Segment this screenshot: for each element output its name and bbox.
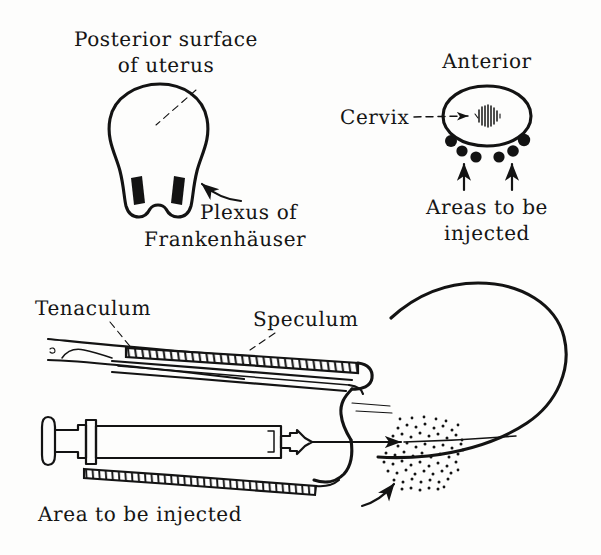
tenaculum-label: Tenaculum [35, 296, 151, 320]
injection-site-dot [507, 145, 519, 157]
syringe [42, 417, 312, 465]
illustration-page: Posterior surface of uterus Plexus of Fr… [0, 0, 601, 555]
medical-illustration: Posterior surface of uterus Plexus of Fr… [0, 0, 601, 555]
area-to-be-injected-label: Area to be injected [37, 502, 242, 526]
syringe-graduation [268, 431, 274, 452]
cervical-canal-hint [356, 411, 392, 413]
injection-site-dot [470, 151, 481, 162]
speculum-lower-blade [84, 469, 316, 495]
posterior-uterus-caption-line1: Posterior surface [74, 27, 258, 51]
cervix-label: Cervix [340, 105, 409, 129]
cervical-os [475, 105, 500, 127]
areas-to-be-injected-line1: Areas to be [425, 195, 548, 219]
area-to-be-injected-arrow [362, 484, 394, 506]
syringe-barrel [96, 426, 281, 458]
tenaculum-handle-eye [50, 348, 55, 353]
uterus-outline-posterior [109, 84, 208, 217]
posterior-uterus-caption-line2: of uterus [118, 53, 215, 77]
injection-site-dot [493, 151, 504, 162]
plexus-mark-left [131, 176, 145, 205]
areas-to-be-injected-line2: injected [444, 221, 530, 245]
uterus-outline-sagittal [378, 283, 566, 458]
posterior-uterus-leader-line [156, 90, 196, 125]
speculum-label: Speculum [253, 307, 358, 331]
plexus-label-line1: Plexus of [200, 200, 298, 224]
anterior-title: Anterior [441, 49, 532, 73]
injection-site-dot [445, 135, 457, 147]
syringe-tip [281, 430, 312, 454]
plexus-mark-right [171, 176, 185, 205]
syringe-thumb-rest [42, 417, 55, 465]
cervical-canal-hint [352, 403, 390, 406]
plexus-label-line2: Frankenhäuser [144, 227, 306, 251]
panel-procedure-view: Tenaculum Speculum [35, 283, 566, 526]
syringe-finger-flange [86, 420, 96, 464]
tenaculum-hook [62, 349, 112, 358]
plexus-arrow [202, 184, 241, 201]
panel-cervix-view: Anterior Cervix [340, 49, 548, 245]
injection-site-dot [518, 134, 530, 146]
panel-posterior-uterus: Posterior surface of uterus Plexus of Fr… [74, 27, 306, 251]
cervix-leader-arrow [414, 116, 468, 117]
syringe-plunger-rod [55, 425, 86, 458]
injection-site-dot [456, 145, 467, 156]
cervix-outline-sagittal [341, 389, 352, 440]
speculum-leader-line [250, 333, 275, 350]
cervix-anterior-lip [314, 440, 352, 482]
